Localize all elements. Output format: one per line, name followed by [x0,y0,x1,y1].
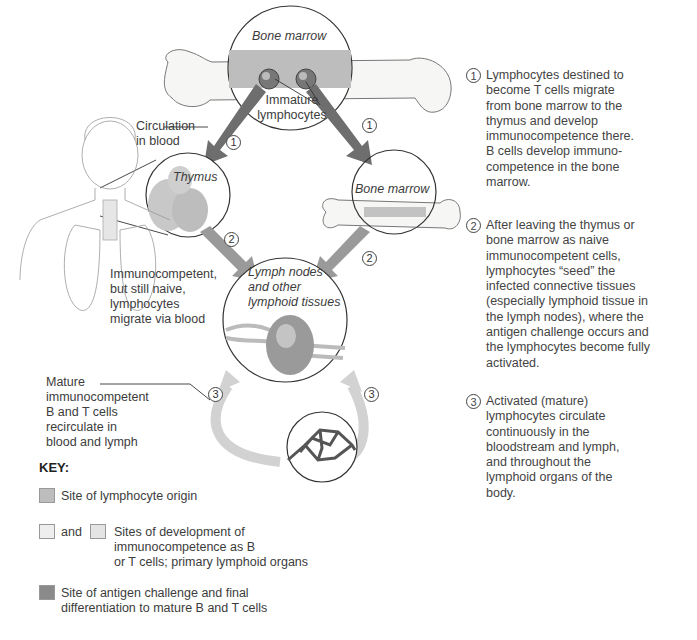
key-item-primary-organs: Sites of development of immunocompetence… [114,525,308,570]
key-title: KEY: [39,460,69,475]
marker-step2-right: 2 [362,251,377,266]
circulation-label: Circulation in blood [136,119,195,149]
marker-step1-left: 1 [226,135,241,150]
bone-marrow-top-label: Bone marrow [252,29,326,44]
step-3-text: Activated (mature) lymphocytes circulate… [486,394,696,501]
lymph-nodes-label: Lymph nodes and other lymphoid tissues [248,265,340,310]
step-2: 2 After leaving the thymus or bone marro… [466,218,696,371]
bone-marrow-right-label: Bone marrow [355,182,429,197]
thymus-circle [146,153,230,237]
step-1: 1 Lymphocytes destined to become T cells… [466,68,696,190]
mature-cells-note: Mature immunocompetent B and T cells rec… [46,375,149,450]
swatch-lymphocyte-origin [39,488,55,503]
marker-step3-right: 3 [364,387,379,402]
key-item-lymphocyte-origin: Site of lymphocyte origin [61,489,197,504]
swatch-primary-organ-1 [39,524,55,539]
step-3-number: 3 [466,394,481,409]
femur-bone-right [323,199,461,229]
step-1-text: Lymphocytes destined to become T cells m… [486,68,696,190]
marker-step1-right: 1 [362,118,377,133]
swatch-primary-organ-2 [90,524,106,539]
immature-lymphocytes-label: Immature lymphocytes [252,93,332,123]
marker-step2-left: 2 [224,232,239,247]
step-3: 3 Activated (mature) lymphocytes circula… [466,394,696,501]
swatch-antigen-challenge [39,585,55,600]
step-2-text: After leaving the thymus or bone marrow … [486,218,696,371]
step-1-number: 1 [466,68,481,83]
naive-lymphocytes-note: Immunocompetent, but still naive, lympho… [110,267,217,327]
marker-step3-left: 3 [208,387,223,402]
step-2-number: 2 [466,218,481,233]
key-item-antigen-challenge: Site of antigen challenge and final diff… [61,586,267,616]
thymus-label: Thymus [173,170,217,185]
key-connector-and: and [61,525,82,540]
lymph-vessel-network-circle [287,412,357,482]
